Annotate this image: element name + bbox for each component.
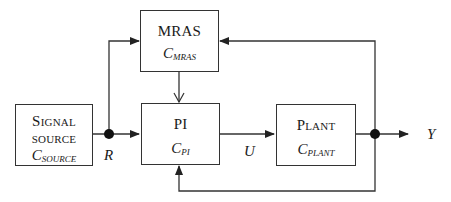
signal-source-title-line1: Signal xyxy=(16,113,92,130)
r-to-mras-arrow xyxy=(109,41,139,134)
signal-label-y: Y xyxy=(427,126,435,143)
mras-block: MRAS CMRAS xyxy=(140,10,219,72)
plant-title: Plant xyxy=(277,113,355,137)
signal-source-title-line2: source xyxy=(16,130,92,147)
r-junction-dot xyxy=(104,129,114,139)
mras-symbol: CMRAS xyxy=(141,42,218,68)
wires xyxy=(0,0,451,202)
pi-block: PI CPI xyxy=(141,103,220,165)
signal-source-block: Signal source CSOURCE xyxy=(15,104,93,166)
plant-block: Plant CPLANT xyxy=(276,104,356,166)
plant-symbol: CPLANT xyxy=(277,137,355,165)
mras-title: MRAS xyxy=(141,20,218,42)
y-junction-dot xyxy=(370,129,380,139)
pi-symbol: CPI xyxy=(142,136,219,164)
pi-title: PI xyxy=(142,112,219,136)
signal-label-r: R xyxy=(104,147,113,164)
signal-label-u: U xyxy=(244,143,255,160)
signal-source-symbol: CSOURCE xyxy=(16,147,92,168)
